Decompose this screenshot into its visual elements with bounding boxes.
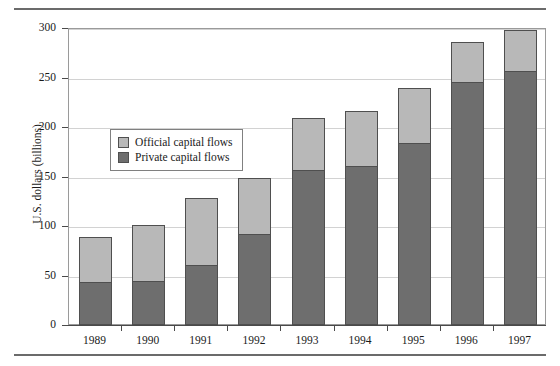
chart-legend: Official capital flows Private capital f… [110, 129, 243, 171]
bar-group[interactable] [238, 27, 271, 324]
y-tick-label: 0 [16, 319, 56, 331]
bar-segment-private[interactable] [504, 71, 537, 325]
bar-group[interactable] [292, 27, 325, 324]
bar-segment-official[interactable] [451, 42, 484, 84]
bar-segment-official[interactable] [292, 118, 325, 170]
x-tick-label: 1992 [227, 334, 281, 346]
bar-segment-official[interactable] [238, 178, 271, 234]
x-tick-label: 1991 [174, 334, 228, 346]
x-tick-label: 1995 [386, 334, 440, 346]
y-tick-label: 50 [16, 270, 56, 282]
figure: U.S. dollars (billions) 0501001502002503… [0, 0, 560, 366]
y-tick-label: 250 [16, 72, 56, 84]
bar-segment-private[interactable] [345, 166, 378, 325]
bar-segment-official[interactable] [132, 225, 165, 282]
x-tick-label: 1997 [492, 334, 546, 346]
bottom-rule [14, 354, 546, 356]
x-axis-line [68, 325, 546, 326]
bar-segment-private[interactable] [132, 281, 165, 325]
y-tick-label: 300 [16, 22, 56, 34]
bar-group[interactable] [504, 27, 537, 324]
legend-swatch-official-icon [118, 137, 129, 148]
bar-segment-official[interactable] [185, 198, 218, 265]
legend-item-private: Private capital flows [118, 150, 233, 165]
legend-swatch-private-icon [118, 152, 129, 163]
top-rule [14, 8, 546, 10]
x-tick-mark [121, 326, 122, 331]
bar-group[interactable] [132, 27, 165, 324]
x-tick-mark [174, 326, 175, 331]
bar-segment-private[interactable] [185, 265, 218, 325]
x-tick-mark [387, 326, 388, 331]
x-tick-label: 1996 [439, 334, 493, 346]
bar-segment-official[interactable] [345, 111, 378, 166]
bar-segment-private[interactable] [398, 143, 431, 325]
bar-segment-official[interactable] [398, 88, 431, 143]
bar-group[interactable] [79, 27, 112, 324]
x-tick-label: 1990 [121, 334, 175, 346]
legend-item-official: Official capital flows [118, 135, 233, 150]
x-tick-mark [227, 326, 228, 331]
y-tick-label: 150 [16, 171, 56, 183]
bar-group[interactable] [451, 27, 484, 324]
x-tick-label: 1989 [68, 334, 122, 346]
x-tick-label: 1994 [333, 334, 387, 346]
x-tick-mark [334, 326, 335, 331]
bar-segment-private[interactable] [238, 234, 271, 325]
bar-segment-private[interactable] [292, 170, 325, 325]
x-tick-mark [493, 326, 494, 331]
legend-label-private: Private capital flows [135, 151, 230, 164]
legend-label-official: Official capital flows [135, 136, 233, 149]
bar-segment-private[interactable] [79, 282, 112, 325]
bar-segment-official[interactable] [79, 237, 112, 284]
x-tick-mark [440, 326, 441, 331]
bar-group[interactable] [345, 27, 378, 324]
x-tick-mark [280, 326, 281, 331]
y-tick-label: 200 [16, 121, 56, 133]
y-tick-label: 100 [16, 220, 56, 232]
bar-group[interactable] [398, 27, 431, 324]
x-tick-label: 1993 [280, 334, 334, 346]
bar-segment-official[interactable] [504, 30, 537, 72]
bar-group[interactable] [185, 27, 218, 324]
plot-area [68, 28, 546, 325]
bar-segment-private[interactable] [451, 82, 484, 325]
